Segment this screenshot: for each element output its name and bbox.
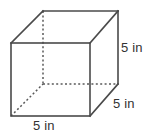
top-left-receding-edge bbox=[11, 11, 43, 43]
cube-drawing bbox=[0, 0, 153, 136]
hidden-diagonal-edge bbox=[11, 84, 43, 116]
top-right-receding-edge bbox=[90, 11, 118, 43]
cube-diagram: 5 in 5 in 5 in bbox=[0, 0, 153, 136]
dimension-label-width: 5 in bbox=[33, 119, 55, 132]
dimension-label-depth: 5 in bbox=[113, 97, 135, 110]
front-face-square bbox=[11, 43, 90, 116]
dimension-label-height: 5 in bbox=[121, 41, 143, 54]
